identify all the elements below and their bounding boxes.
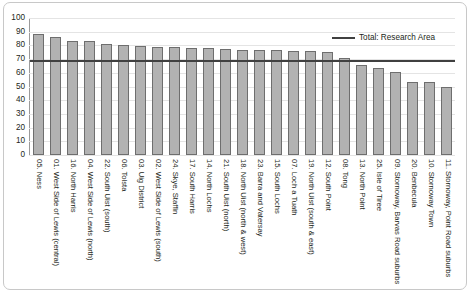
bar — [203, 48, 213, 155]
bar — [407, 82, 417, 155]
x-tick-label: 10. Stornoway Town — [427, 159, 435, 227]
chart-legend: Total: Research Area — [332, 34, 435, 42]
gridline — [29, 155, 455, 156]
bar — [339, 58, 349, 155]
x-tick-label: 18. North Uist (north & west) — [239, 159, 247, 255]
bar-slot — [234, 19, 251, 155]
x-tick-label: 14. North Lochs — [205, 159, 213, 213]
x-tick-label: 01. West Side of Lewis (central) — [52, 159, 60, 266]
bar — [84, 41, 94, 155]
x-tick-label: 11. Stornoway, Point Road suburbs — [444, 159, 452, 277]
bar-slot — [132, 19, 149, 155]
x-axis-labels: 05. Ness01. West Side of Lewis (central)… — [30, 157, 456, 291]
x-label-slot: 09. Stornoway, Barvas Road suburbs — [388, 157, 405, 291]
x-tick-label: 04. West Side of Lewis (north) — [86, 159, 94, 261]
x-label-slot: 02. West Side of Lewis (south) — [149, 157, 166, 291]
x-label-slot: 10. Stornoway Town — [422, 157, 439, 291]
bar-slot — [217, 19, 234, 155]
y-tick-label: 10 — [16, 137, 25, 145]
x-label-slot: 22. South Uist (south) — [98, 157, 115, 291]
bar — [220, 49, 230, 155]
x-label-slot: 15. South Lochs — [269, 157, 286, 291]
bar — [67, 41, 77, 155]
y-tick-label: 90 — [16, 28, 25, 36]
x-label-slot: 16. North Harris — [64, 157, 81, 291]
y-tick-label: 60 — [16, 69, 25, 77]
x-label-slot: 04. West Side of Lewis (north) — [81, 157, 98, 291]
x-label-slot: 13. North Point — [354, 157, 371, 291]
bar — [424, 82, 434, 155]
x-label-slot: 11. Stornoway, Point Road suburbs — [439, 157, 456, 291]
x-tick-label: 03. Uig District — [137, 159, 145, 208]
x-tick-label: 22. South Uist (south) — [103, 159, 111, 232]
x-tick-label: 06. Tolsta — [120, 159, 128, 191]
x-tick-label: 23. Barra and Vatersay — [256, 159, 264, 237]
x-label-slot: 03. Uig District — [132, 157, 149, 291]
x-label-slot: 24. Skye, Staffin — [166, 157, 183, 291]
bar — [135, 46, 145, 155]
x-tick-label: 09. Stornoway, Barvas Road suburbs — [393, 159, 401, 284]
x-label-slot: 07. Loch a Tuath — [286, 157, 303, 291]
x-tick-label: 12. South Point — [325, 159, 333, 211]
x-label-slot: 17. South Harris — [183, 157, 200, 291]
chart-figure: 0102030405060708090100 Total: Research A… — [0, 0, 470, 294]
y-tick-label: 100 — [11, 14, 25, 22]
bar — [271, 50, 281, 155]
bar-slot — [251, 19, 268, 155]
bar — [373, 68, 383, 155]
x-label-slot: 08. Tong — [337, 157, 354, 291]
x-tick-label: 02. West Side of Lewis (south) — [154, 159, 162, 262]
legend-label-total-research-area: Total: Research Area — [359, 34, 435, 42]
bar — [356, 65, 366, 155]
x-tick-label: 20. Benbecula — [410, 159, 418, 208]
bar-slot — [149, 19, 166, 155]
legend-line-swatch — [332, 37, 355, 39]
x-label-slot: 23. Barra and Vatersay — [252, 157, 269, 291]
bar-slot — [166, 19, 183, 155]
x-tick-label: 25. Isle of Tiree — [376, 159, 384, 211]
bar — [441, 87, 451, 155]
x-tick-label: 16. North Harris — [69, 159, 77, 213]
bar — [186, 48, 196, 155]
x-label-slot: 06. Tolsta — [115, 157, 132, 291]
bar-slot — [47, 19, 64, 155]
bar-slot — [200, 19, 217, 155]
bar — [169, 47, 179, 155]
x-tick-label: 24. Skye, Staffin — [171, 159, 179, 214]
bar-slot — [302, 19, 319, 155]
bar-slot — [30, 19, 47, 155]
x-tick-label: 07. Loch a Tuath — [290, 159, 298, 216]
x-tick-label: 15. South Lochs — [273, 159, 281, 214]
bar — [33, 34, 43, 155]
bar-slot — [438, 19, 455, 155]
x-label-slot: 05. Ness — [30, 157, 47, 291]
bar — [254, 50, 264, 155]
bar — [237, 50, 247, 155]
bar-slot — [183, 19, 200, 155]
bar-slot — [64, 19, 81, 155]
x-tick-label: 08. Tong — [342, 159, 350, 188]
x-label-slot: 19. North Uist (south & east) — [303, 157, 320, 291]
bar — [305, 51, 315, 155]
bar-slot — [268, 19, 285, 155]
bar-slot — [115, 19, 132, 155]
x-tick-label: 21. South Uist (north) — [222, 159, 230, 231]
reference-line — [30, 60, 455, 61]
y-tick-label: 50 — [16, 82, 25, 90]
x-label-slot: 01. West Side of Lewis (central) — [47, 157, 64, 291]
y-tick-label: 30 — [16, 110, 25, 118]
x-label-slot: 25. Isle of Tiree — [371, 157, 388, 291]
y-tick-label: 40 — [16, 96, 25, 104]
bar-slot — [81, 19, 98, 155]
x-label-slot: 21. South Uist (north) — [218, 157, 235, 291]
x-tick-label: 17. South Harris — [188, 159, 196, 214]
bar — [50, 37, 60, 155]
x-tick-label: 19. North Uist (south & east) — [307, 159, 315, 255]
bar — [390, 72, 400, 155]
y-tick-label: 0 — [20, 151, 25, 159]
y-tick-label: 70 — [16, 55, 25, 63]
y-tick-label: 20 — [16, 124, 25, 132]
y-tick-label: 80 — [16, 41, 25, 49]
x-tick-label: 05. Ness — [35, 159, 43, 189]
x-label-slot: 18. North Uist (north & west) — [235, 157, 252, 291]
